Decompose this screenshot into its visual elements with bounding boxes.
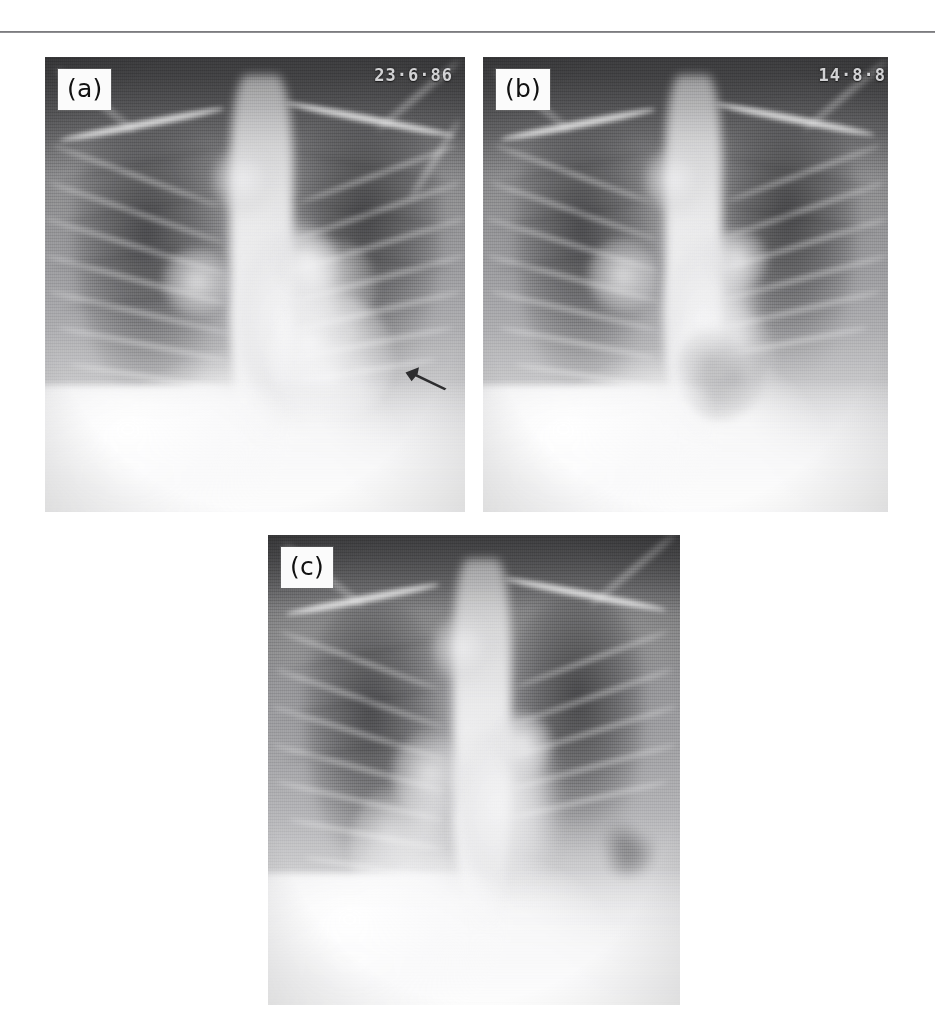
radiograph-panel-c[interactable]: (c): [268, 535, 680, 1005]
panel-label-a: (a): [58, 69, 111, 110]
figure-sheet: 23·6·86 (a): [0, 0, 935, 1025]
xray-image-c: [268, 535, 680, 1005]
lesion-pointer-arrow: [403, 365, 449, 391]
radiograph-panel-b[interactable]: 14·8·8 (b): [483, 57, 888, 512]
header-divider-rule: [0, 31, 935, 33]
panel-label-b: (b): [496, 69, 550, 110]
date-stamp-a: 23·6·86: [374, 65, 453, 85]
xray-image-b: [483, 57, 888, 512]
film-vignette: [268, 535, 680, 1005]
film-vignette: [483, 57, 888, 512]
panel-label-c: (c): [281, 547, 333, 588]
film-vignette: [45, 57, 465, 512]
xray-image-a: [45, 57, 465, 512]
date-stamp-b: 14·8·8: [819, 65, 886, 85]
radiograph-panel-a[interactable]: 23·6·86 (a): [45, 57, 465, 512]
